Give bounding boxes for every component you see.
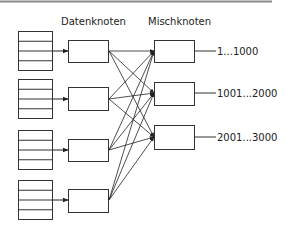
mix-node-1 xyxy=(155,41,195,63)
data-node-3 xyxy=(69,140,109,162)
edge-d3-m3 xyxy=(109,137,154,150)
data-node-4 xyxy=(69,190,109,213)
range-label-1: 1...1000 xyxy=(217,46,258,57)
data-source-3 xyxy=(19,131,53,170)
edge-d2-m3 xyxy=(109,99,154,137)
edge-d2-m1 xyxy=(109,51,154,99)
data-source-4 xyxy=(19,181,53,220)
data-source-2 xyxy=(19,80,53,119)
data-node-1 xyxy=(69,41,109,63)
edge-d3-m1 xyxy=(109,51,154,150)
data-node-2 xyxy=(69,88,109,111)
mix-node-3 xyxy=(155,126,195,150)
edge-d3-m2 xyxy=(109,93,154,150)
header-data-nodes: Datenknoten xyxy=(61,16,126,27)
header-mix-nodes: Mischknoten xyxy=(148,16,211,27)
range-label-3: 2001...3000 xyxy=(217,132,277,143)
data-source-1 xyxy=(19,32,53,71)
shuffle-diagram: Datenknoten Mischknoten xyxy=(0,0,285,233)
edge-d4-m1 xyxy=(109,51,154,200)
mix-node-2 xyxy=(155,83,195,106)
range-label-2: 1001...2000 xyxy=(217,88,277,99)
